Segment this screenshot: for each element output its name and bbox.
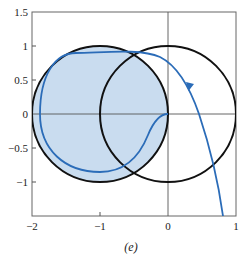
x-tick-label: −1: [94, 220, 106, 232]
y-tick-label: 0: [23, 108, 29, 120]
y-tick-label: −0.5: [8, 142, 28, 154]
y-tick-label: −1: [16, 176, 28, 188]
nyquist-plot: 1.5 1 0.5 0 −0.5 −1 −2 −1 0 1 (e): [0, 0, 246, 256]
x-tick-label: 1: [233, 220, 239, 232]
x-tick-label: 0: [165, 220, 171, 232]
y-tick-label: 1: [23, 40, 29, 52]
figure-caption: (e): [124, 240, 137, 254]
y-tick-label: 0.5: [14, 74, 28, 86]
x-tick-label: −2: [26, 220, 38, 232]
y-tick-label: 1.5: [14, 6, 28, 18]
